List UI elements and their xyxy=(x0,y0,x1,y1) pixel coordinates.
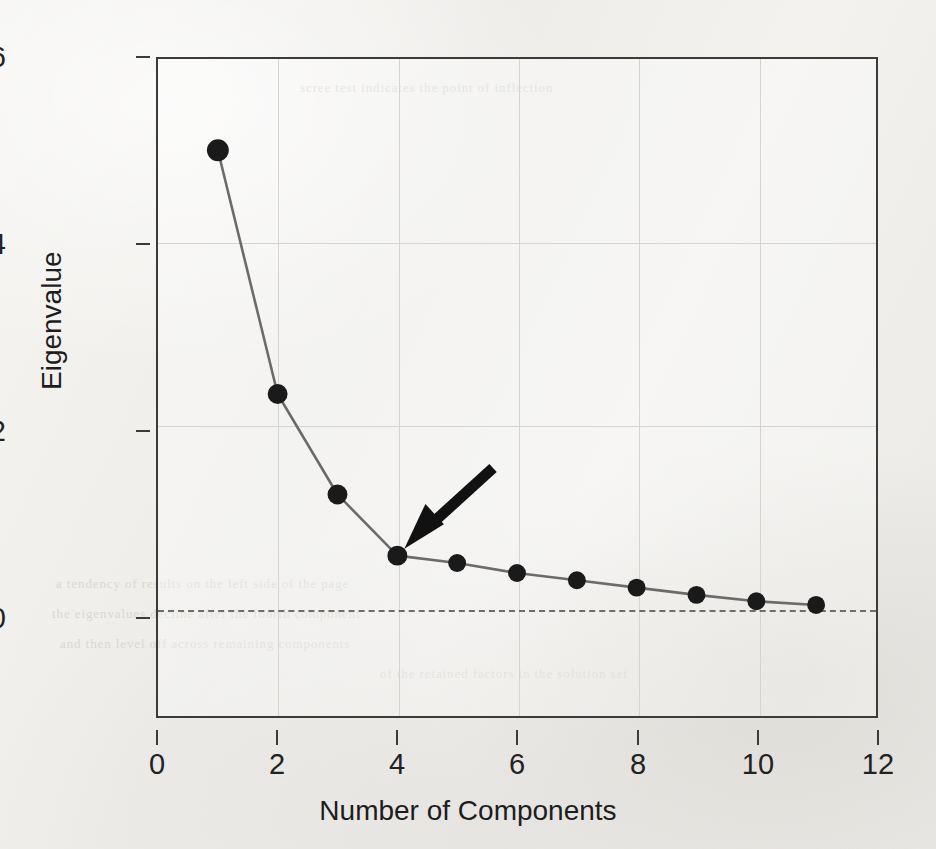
data-point-marker xyxy=(807,596,825,614)
x-tick-label: 2 xyxy=(269,748,285,781)
data-point-marker xyxy=(387,546,407,566)
eigenvalue-line xyxy=(218,150,816,605)
data-point-marker xyxy=(508,564,526,582)
y-tick-mark xyxy=(136,56,150,58)
data-point-marker xyxy=(207,139,229,161)
scree-line-chart xyxy=(158,59,876,716)
y-tick-mark xyxy=(136,430,150,432)
x-tick-mark xyxy=(516,730,518,745)
y-axis-title: Eigenvalue xyxy=(36,251,68,390)
x-tick-label: 12 xyxy=(862,748,894,781)
data-point-marker xyxy=(568,571,586,589)
x-tick-mark xyxy=(156,730,158,745)
y-tick-label: 4 xyxy=(0,228,6,261)
x-tick-mark xyxy=(757,730,759,745)
y-tick-mark xyxy=(136,617,150,619)
x-tick-mark xyxy=(276,730,278,745)
scree-plot-figure: a tendency of results on the left side o… xyxy=(0,0,936,849)
eigenvalue-markers xyxy=(207,139,825,614)
x-tick-label: 6 xyxy=(509,748,525,781)
data-point-marker xyxy=(328,485,348,505)
x-tick-mark xyxy=(637,730,639,745)
x-tick-label: 8 xyxy=(630,748,646,781)
x-tick-label: 10 xyxy=(742,748,774,781)
data-point-marker xyxy=(628,579,646,597)
data-point-marker xyxy=(268,384,288,404)
y-tick-mark xyxy=(136,243,150,245)
x-tick-mark xyxy=(877,730,879,745)
x-tick-mark xyxy=(396,730,398,745)
x-tick-label: 4 xyxy=(389,748,405,781)
y-tick-label: 6 xyxy=(0,41,6,74)
plot-area xyxy=(156,57,878,718)
x-tick-label: 0 xyxy=(149,748,165,781)
data-point-marker xyxy=(747,592,765,610)
y-tick-label: 2 xyxy=(0,415,6,448)
y-tick-label: 0 xyxy=(0,602,6,635)
x-axis-title: Number of Components xyxy=(0,795,936,827)
elbow-arrow-icon xyxy=(404,468,493,549)
data-point-marker xyxy=(688,586,706,604)
data-point-marker xyxy=(448,554,466,572)
